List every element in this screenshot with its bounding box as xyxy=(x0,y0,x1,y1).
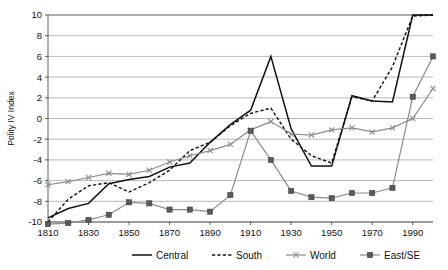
data-point-marker xyxy=(208,209,213,214)
x-tick-label: 1910 xyxy=(240,227,261,238)
y-tick-label: 4 xyxy=(37,72,42,83)
y-tick-label: -2 xyxy=(34,134,42,145)
y-tick-label: 8 xyxy=(37,30,42,41)
data-point-marker xyxy=(167,207,172,212)
data-point-marker xyxy=(268,119,273,124)
data-point-marker xyxy=(248,128,253,133)
legend-marker xyxy=(367,252,372,257)
legend-label: South xyxy=(236,250,262,261)
x-tick-label: 1810 xyxy=(37,227,58,238)
data-point-marker xyxy=(390,185,395,190)
x-tick-label: 1890 xyxy=(200,227,221,238)
x-tick-label: 1950 xyxy=(321,227,342,238)
data-point-marker xyxy=(349,190,354,195)
legend-item-south: South xyxy=(212,250,262,261)
data-point-marker xyxy=(430,54,435,59)
y-tick-label: -10 xyxy=(28,216,42,227)
legend-item-east-se: East/SE xyxy=(360,250,420,261)
polity-index-chart: -10-8-6-4-20246810Polity IV Index1810183… xyxy=(0,0,448,270)
data-point-marker xyxy=(410,94,415,99)
data-point-marker xyxy=(66,220,71,225)
y-tick-label: 6 xyxy=(37,51,42,62)
series-line-world xyxy=(48,88,433,184)
x-tick-label: 1990 xyxy=(402,227,423,238)
legend-label: East/SE xyxy=(384,250,420,261)
series-line-east-se xyxy=(48,56,433,224)
x-tick-label: 1970 xyxy=(362,227,383,238)
data-point-marker xyxy=(370,190,375,195)
data-point-marker xyxy=(45,221,50,226)
series-line-central xyxy=(48,15,433,218)
x-tick-label: 1930 xyxy=(281,227,302,238)
x-tick-label: 1850 xyxy=(118,227,139,238)
data-point-marker xyxy=(187,207,192,212)
legend-item-world: World xyxy=(286,250,336,261)
y-tick-label: 0 xyxy=(37,113,42,124)
data-point-marker xyxy=(289,188,294,193)
x-tick-label: 1830 xyxy=(78,227,99,238)
data-point-marker xyxy=(126,200,131,205)
y-tick-label: 2 xyxy=(37,92,42,103)
y-tick-label: -4 xyxy=(34,154,42,165)
data-point-marker xyxy=(228,192,233,197)
y-tick-label: -6 xyxy=(34,175,42,186)
legend-label: World xyxy=(310,250,336,261)
legend-item-central: Central xyxy=(132,250,188,261)
data-point-marker xyxy=(268,157,273,162)
data-point-marker xyxy=(309,195,314,200)
legend-label: Central xyxy=(156,250,188,261)
chart-canvas: -10-8-6-4-20246810Polity IV Index1810183… xyxy=(0,0,448,270)
y-tick-label: 10 xyxy=(31,9,42,20)
data-point-marker xyxy=(329,196,334,201)
x-tick-label: 1870 xyxy=(159,227,180,238)
y-tick-label: -8 xyxy=(34,196,42,207)
data-point-marker xyxy=(430,86,435,91)
data-point-marker xyxy=(86,217,91,222)
y-axis-title: Polity IV Index xyxy=(6,91,16,146)
data-point-marker xyxy=(147,201,152,206)
data-point-marker xyxy=(106,212,111,217)
